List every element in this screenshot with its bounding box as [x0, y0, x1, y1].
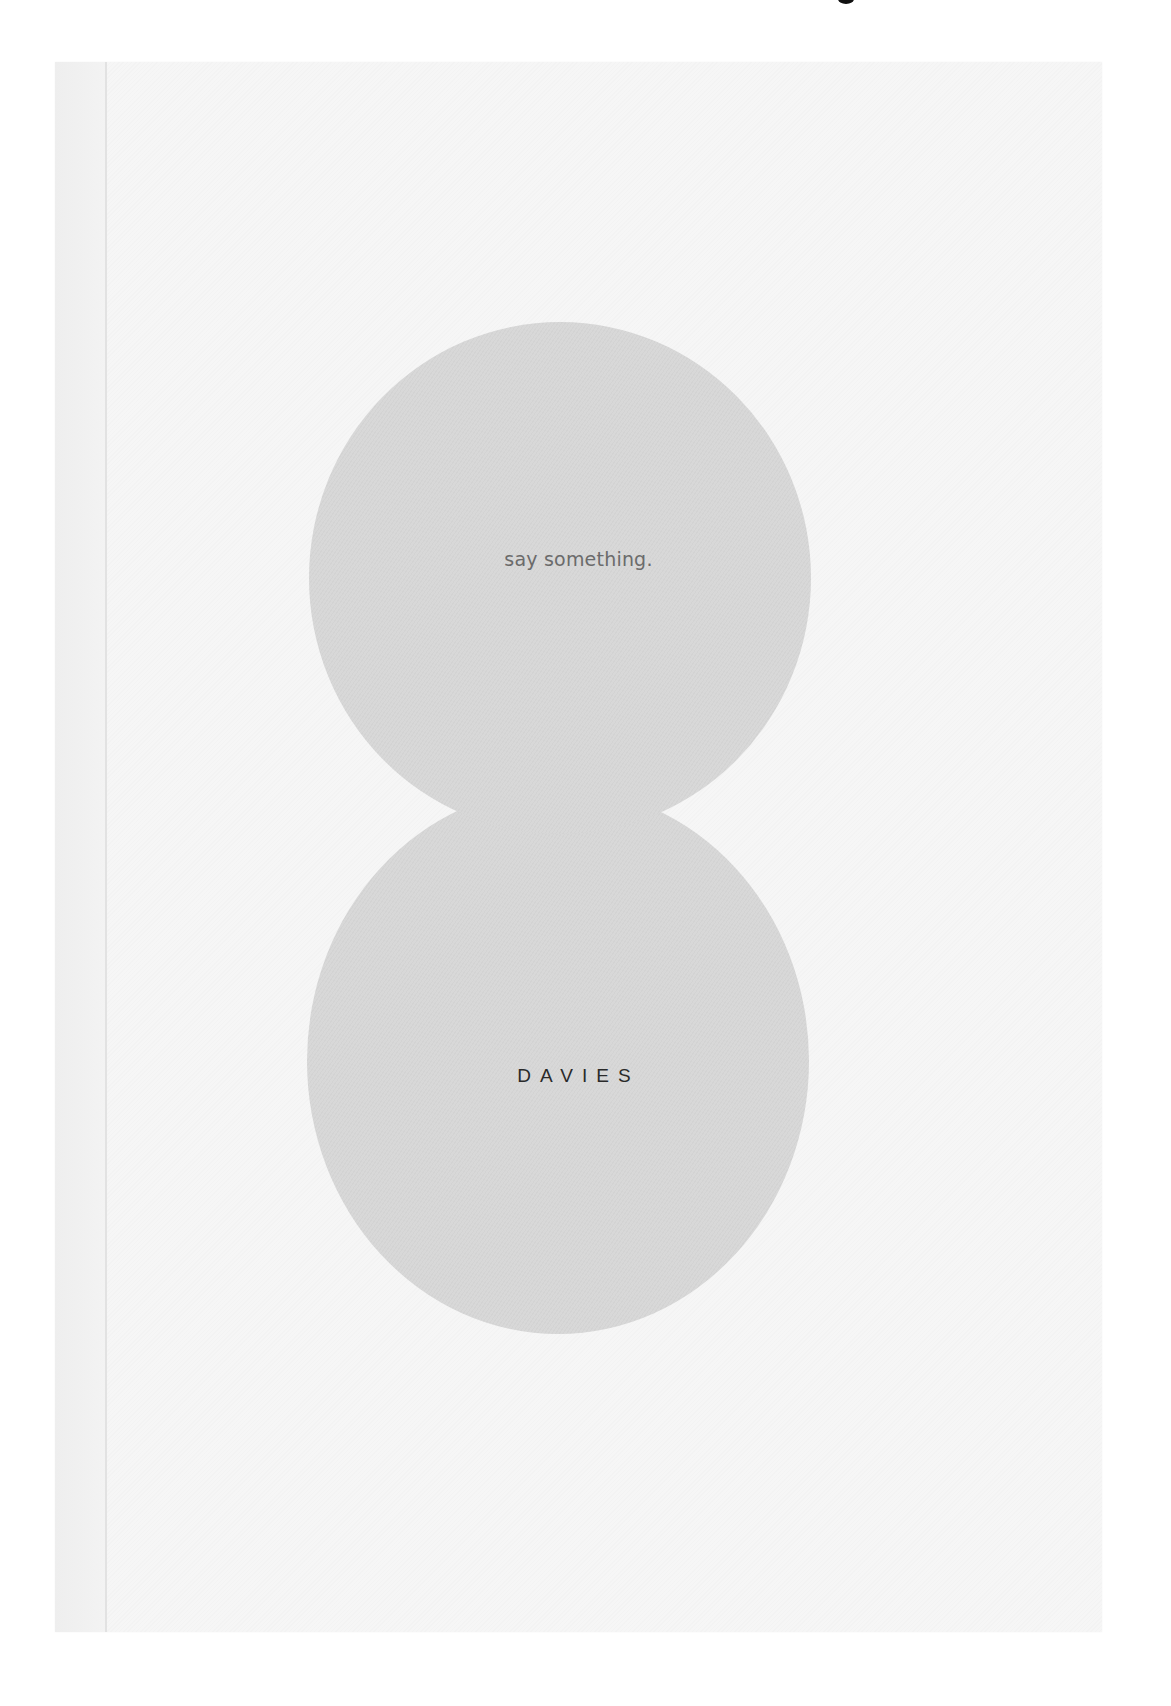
top-circle-shape [309, 322, 811, 834]
tagline-text: say something. [55, 548, 1102, 570]
paper-left-band [55, 62, 107, 1632]
brand-logo-text: DAVIES [55, 1065, 1102, 1087]
spine-fold-line [105, 62, 107, 1632]
clipped-header-glyph [838, 0, 854, 4]
bottom-circle-shape [307, 788, 809, 1334]
poster-paper: say something. DAVIES [55, 62, 1102, 1632]
